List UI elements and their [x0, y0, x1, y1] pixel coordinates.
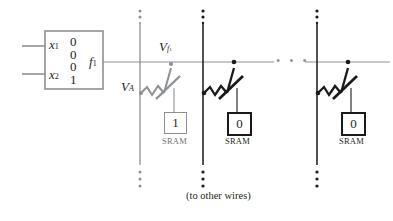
sram-value-1: 1: [164, 112, 187, 134]
dot: [139, 16, 142, 19]
dot: [315, 15, 318, 18]
vertical-wire-3: [315, 9, 318, 187]
lut-truth-table: 0 0 0 1: [70, 36, 77, 86]
lut-input-label-1: x1: [49, 38, 59, 51]
switch-1[interactable]: [139, 62, 180, 112]
lut-bit-3: 1: [70, 74, 77, 87]
lut-input-label-2: x2: [49, 68, 59, 81]
lut-output-label: f1: [89, 55, 97, 68]
dot: [315, 184, 318, 187]
wire-ellipsis: • • •: [276, 55, 310, 67]
dot: [139, 185, 142, 188]
dot: [201, 9, 204, 12]
dot: [316, 22, 318, 24]
switch-1-terminal-top: [169, 62, 173, 66]
switch-3-terminal-left: [316, 91, 321, 96]
dot: [201, 184, 204, 187]
dot: [201, 170, 204, 173]
sram-value-2: 0: [227, 112, 252, 136]
switch-2[interactable]: [202, 60, 243, 112]
dot: [139, 22, 141, 24]
vertical-wire-1: [139, 10, 142, 188]
switch-3-terminal-top: [346, 60, 351, 65]
fpga-routing-switch-diagram: x1 x2 0 0 0 1 f1 Vf1 VA 1 SRAM 0 SRAM 0 …: [0, 0, 393, 221]
sram-label-3: SRAM: [329, 136, 374, 146]
dot: [315, 177, 318, 180]
switch-2-terminal-left: [202, 91, 207, 96]
dot: [315, 9, 318, 12]
figure-caption: (to other wires): [186, 191, 251, 202]
sram-label-2: SRAM: [215, 136, 260, 146]
vf1-label: Vf1: [159, 40, 172, 53]
switch-1-terminal-left: [139, 91, 143, 95]
dot: [139, 178, 142, 181]
dot: [202, 22, 204, 24]
diagram-canvas: [0, 0, 393, 221]
vertical-wire-2: [201, 9, 204, 187]
sram-value-3: 0: [341, 112, 366, 136]
dot: [201, 177, 204, 180]
dot: [139, 171, 142, 174]
va-label: VA: [121, 80, 134, 93]
sram-label-1: SRAM: [152, 136, 197, 146]
switch-3[interactable]: [316, 60, 357, 112]
dot: [315, 170, 318, 173]
dot: [139, 10, 142, 13]
dot: [201, 15, 204, 18]
switch-2-terminal-top: [232, 60, 237, 65]
